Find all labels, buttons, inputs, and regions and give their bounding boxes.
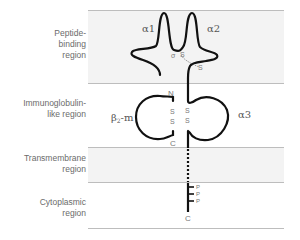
mhc-class-i-diagram: σ S S α1 α2 S S α3 N S S C β2-m P P P C: [0, 0, 300, 240]
alpha3-label: α3: [238, 109, 251, 120]
alpha2-disulfide-s1: S: [180, 51, 185, 58]
alpha2-label: α2: [207, 23, 220, 34]
beta2m-disulfide-s1: S: [170, 108, 175, 115]
alpha2-disulfide-s2: S: [198, 64, 203, 71]
beta2m-domain: [136, 96, 173, 139]
alpha1-label: α1: [142, 23, 155, 34]
phosphate-2: P: [196, 191, 200, 197]
heavy-chain-c-terminus: C: [185, 214, 191, 223]
alpha1-disulfide-s: σ: [171, 52, 176, 59]
beta2m-n-terminus: N: [168, 89, 174, 98]
phosphate-1: P: [196, 184, 200, 190]
alpha3-disulfide-s2: S: [185, 117, 190, 124]
beta2m-c-terminus: C: [170, 139, 176, 148]
band-peptide-binding: [88, 10, 284, 83]
phosphate-3: P: [196, 198, 200, 204]
alpha3-domain: [188, 97, 228, 140]
alpha3-disulfide-s1: S: [185, 107, 190, 114]
band-transmembrane: [88, 147, 284, 182]
beta2m-disulfide-s2: S: [170, 118, 175, 125]
beta2m-label: β2-m: [111, 112, 134, 124]
